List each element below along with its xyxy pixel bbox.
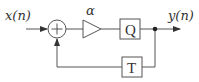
feedback-arrow <box>57 39 122 67</box>
gain-label: α <box>86 3 95 18</box>
input-label: x(n) <box>5 8 31 23</box>
delay-label: T <box>127 60 136 76</box>
gain-triangle <box>83 20 101 38</box>
output-label: y(n) <box>167 8 194 23</box>
junction-dot <box>153 27 158 32</box>
quantizer-label: Q <box>125 22 136 38</box>
block-diagram: x(n) y(n) α Q T <box>0 0 199 82</box>
